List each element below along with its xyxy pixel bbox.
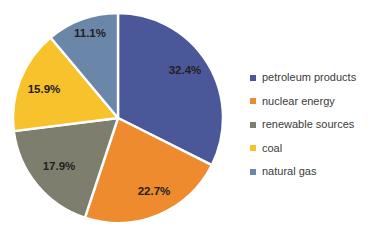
- legend-swatch-icon: [250, 145, 256, 151]
- pie-svg: 32.4%22.7%17.9%15.9%11.1%: [0, 0, 246, 236]
- legend-swatch-icon: [250, 122, 256, 128]
- legend-item[interactable]: petroleum products: [250, 66, 374, 90]
- legend-item[interactable]: natural gas: [250, 160, 374, 184]
- legend-item-label: natural gas: [262, 166, 316, 177]
- chart-legend: petroleum productsnuclear energyrenewabl…: [250, 66, 374, 184]
- legend-item[interactable]: renewable sources: [250, 113, 374, 137]
- legend-swatch-icon: [250, 169, 256, 175]
- legend-swatch-icon: [250, 98, 256, 104]
- legend-item-label: renewable sources: [262, 119, 354, 130]
- legend-item-label: coal: [262, 143, 282, 154]
- pie-plot-area: 32.4%22.7%17.9%15.9%11.1%: [0, 0, 246, 236]
- pie-slice-label: 11.1%: [74, 27, 106, 39]
- legend-item-label: nuclear energy: [262, 96, 335, 107]
- pie-slice-group: [13, 13, 223, 223]
- legend-item[interactable]: nuclear energy: [250, 90, 374, 114]
- legend-swatch-icon: [250, 75, 256, 81]
- pie-slice-label: 17.9%: [43, 160, 76, 172]
- pie-slice-label: 15.9%: [28, 83, 61, 95]
- pie-chart-figure: 32.4%22.7%17.9%15.9%11.1% petroleum prod…: [0, 0, 374, 236]
- pie-slice-label: 32.4%: [169, 64, 202, 76]
- legend-item-label: petroleum products: [262, 72, 356, 83]
- pie-slice-label: 22.7%: [138, 185, 171, 197]
- legend-item[interactable]: coal: [250, 137, 374, 161]
